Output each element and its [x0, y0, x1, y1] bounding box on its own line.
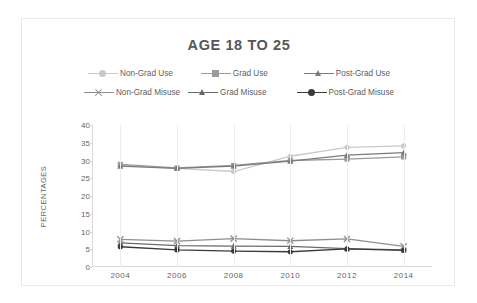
legend-item-post-grad-misuse[interactable]: Post-Grad Misuse — [297, 88, 395, 98]
legend-label-post-grad-use: Post-Grad Use — [336, 69, 390, 78]
legend-item-post-grad-use[interactable]: Post-Grad Use — [304, 69, 390, 79]
square-marker-icon — [212, 70, 219, 77]
gridline-vertical — [120, 125, 121, 267]
x-tick-label: 2004 — [97, 271, 143, 280]
chart-legend: Non-Grad Use Grad Use Post-Grad Use — [22, 64, 456, 102]
y-tick-label: 10 — [68, 227, 90, 236]
x-tick-label: 2010 — [267, 271, 313, 280]
legend-swatch-post-grad-use — [304, 69, 334, 79]
series-non-grad-misuse — [117, 236, 407, 250]
x-tick-label: 2014 — [381, 271, 427, 280]
x-marker-icon — [95, 89, 102, 96]
legend-swatch-non-grad-misuse — [84, 88, 114, 98]
legend-swatch-grad-misuse — [188, 88, 218, 98]
legend-swatch-post-grad-misuse — [297, 88, 327, 98]
y-tick-label: 15 — [68, 209, 90, 218]
legend-item-grad-misuse[interactable]: Grad Misuse — [188, 88, 266, 98]
x-tick-label: 2006 — [154, 271, 200, 280]
legend-label-non-grad-use: Non-Grad Use — [120, 69, 173, 78]
legend-label-grad-misuse: Grad Misuse — [220, 88, 266, 97]
y-tick-mark — [89, 267, 92, 268]
y-tick-label: 25 — [68, 174, 90, 183]
series-line — [120, 247, 403, 252]
legend-row-1: Non-Grad Use Grad Use Post-Grad Use — [22, 64, 456, 83]
y-axis-title-text: PERCENTAGES — [40, 165, 49, 227]
gridline-vertical — [234, 125, 235, 267]
triangle-marker-icon — [315, 70, 321, 76]
legend-label-grad-use: Grad Use — [233, 69, 268, 78]
plot-area — [92, 125, 432, 267]
circle-marker-icon — [308, 89, 315, 96]
series-post-grad-use — [117, 149, 406, 170]
y-tick-label: 40 — [68, 121, 90, 130]
circle-marker-icon — [99, 70, 106, 77]
chart-container: AGE 18 TO 25 Non-Grad Use Grad Use — [21, 18, 455, 286]
y-tick-label: 5 — [68, 245, 90, 254]
legend-item-non-grad-misuse[interactable]: Non-Grad Misuse — [84, 88, 180, 98]
gridline-vertical — [347, 125, 348, 267]
gridline-vertical — [290, 125, 291, 267]
legend-row-2: Non-Grad Misuse Grad Misuse Post-Grad Mi… — [22, 83, 456, 102]
legend-label-post-grad-misuse: Post-Grad Misuse — [329, 88, 395, 97]
series-lines-layer — [92, 125, 432, 267]
gridline-vertical — [177, 125, 178, 267]
x-tick-label: 2012 — [324, 271, 370, 280]
y-tick-label: 35 — [68, 138, 90, 147]
gridline-vertical — [404, 125, 405, 267]
y-axis-tick-labels: 0510152025303540 — [66, 125, 90, 267]
series-line — [120, 153, 403, 169]
triangle-marker-icon — [199, 89, 205, 95]
y-tick-label: 20 — [68, 192, 90, 201]
x-tick-label: 2008 — [211, 271, 257, 280]
series-line — [120, 157, 403, 168]
legend-swatch-non-grad-use — [88, 69, 118, 79]
legend-swatch-grad-use — [201, 69, 231, 79]
y-tick-label: 0 — [68, 263, 90, 272]
y-tick-label: 30 — [68, 156, 90, 165]
legend-item-non-grad-use[interactable]: Non-Grad Use — [88, 69, 173, 79]
legend-item-grad-use[interactable]: Grad Use — [201, 69, 268, 79]
chart-title: AGE 18 TO 25 — [22, 37, 456, 53]
x-axis-tick-labels: 200420062008201020122014 — [92, 271, 432, 285]
y-axis-title: PERCENTAGES — [38, 125, 50, 267]
legend-label-non-grad-misuse: Non-Grad Misuse — [116, 88, 180, 97]
